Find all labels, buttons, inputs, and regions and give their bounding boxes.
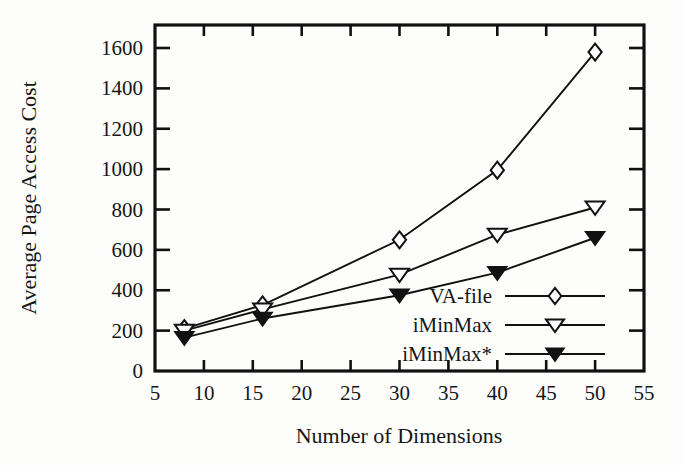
y-axis-ticks-left <box>155 48 170 331</box>
marker-open-triangle-down <box>488 229 507 242</box>
legend-label-iminmax: iMinMax <box>413 313 493 337</box>
x-tick-label: 25 <box>340 381 361 405</box>
x-tick-label: 55 <box>634 381 655 405</box>
legend-label-va-file: VA-file <box>429 284 492 308</box>
x-tick-label: 10 <box>193 381 214 405</box>
series-polyline <box>184 52 595 329</box>
y-tick-label: 800 <box>112 198 144 222</box>
y-tick-label: 1200 <box>101 117 143 141</box>
y-axis-title: Average Page Access Cost <box>16 81 41 315</box>
y-tick-label: 1600 <box>101 36 143 60</box>
marker-open-diamond <box>393 231 406 248</box>
x-tick-label: 5 <box>150 381 161 405</box>
y-tick-label: 200 <box>112 319 144 343</box>
y-tick-label: 1400 <box>101 76 143 100</box>
y-axis-ticks-right <box>629 48 644 331</box>
marker-filled-triangle-down <box>175 332 194 345</box>
marker-open-triangle-down <box>586 202 605 215</box>
series-iminmax- <box>175 232 605 345</box>
x-tick-label: 50 <box>585 381 606 405</box>
y-tick-label: 400 <box>112 278 144 302</box>
figure-container: 510152025303540455055 020040060080010001… <box>0 0 684 465</box>
marker-filled-triangle-down <box>586 232 605 245</box>
y-tick-label: 600 <box>112 238 144 262</box>
marker-open-diamond <box>549 288 562 304</box>
x-tick-label: 15 <box>242 381 263 405</box>
y-axis-tick-labels: 02004006008001000120014001600 <box>101 36 143 383</box>
x-tick-label: 30 <box>389 381 410 405</box>
x-axis-ticks-bottom <box>204 360 595 371</box>
x-tick-label: 40 <box>487 381 508 405</box>
series-va-file <box>178 44 602 338</box>
x-axis-tick-labels: 510152025303540455055 <box>150 381 655 405</box>
series-polyline <box>184 238 595 338</box>
y-tick-label: 0 <box>133 359 144 383</box>
line-chart: 510152025303540455055 020040060080010001… <box>0 0 684 465</box>
x-tick-label: 20 <box>291 381 312 405</box>
chart-legend: VA-fileiMinMaxiMinMax* <box>402 284 605 366</box>
legend-label-iminmax-: iMinMax* <box>402 342 492 366</box>
x-axis-title: Number of Dimensions <box>296 423 503 448</box>
x-axis-ticks-top <box>204 25 595 36</box>
y-tick-label: 1000 <box>101 157 143 181</box>
data-series-layer <box>175 44 605 346</box>
x-tick-label: 45 <box>536 381 557 405</box>
x-tick-label: 35 <box>438 381 459 405</box>
series-iminmax <box>175 202 605 338</box>
